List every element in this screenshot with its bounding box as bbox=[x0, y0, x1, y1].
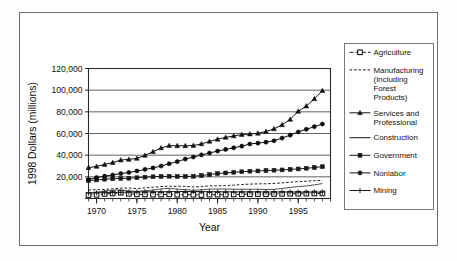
data-point-marker bbox=[119, 171, 123, 175]
x-axis-title: Year bbox=[199, 222, 221, 233]
x-tick-label: 1995 bbox=[289, 206, 308, 216]
data-point-marker bbox=[103, 174, 107, 178]
data-point-marker bbox=[288, 133, 292, 137]
legend-label: Government bbox=[374, 151, 418, 160]
data-point-marker bbox=[272, 168, 276, 172]
legend-label: Agriculture bbox=[374, 48, 412, 57]
data-point-marker bbox=[358, 153, 362, 157]
data-point-marker bbox=[224, 171, 228, 175]
data-point-marker bbox=[175, 175, 179, 179]
y-axis-title: 1998 Dollars (millions) bbox=[27, 82, 38, 185]
y-tick-label: 20,000 bbox=[56, 172, 83, 182]
data-point-marker bbox=[111, 173, 115, 177]
y-tick-label: 80,000 bbox=[56, 107, 83, 117]
data-point-marker bbox=[304, 127, 308, 131]
x-tick-label: 1985 bbox=[208, 206, 227, 216]
data-point-marker bbox=[127, 170, 131, 174]
data-point-marker bbox=[191, 174, 195, 178]
data-point-marker bbox=[296, 109, 301, 113]
data-point-marker bbox=[256, 141, 260, 145]
grid-lines bbox=[89, 69, 331, 177]
data-point-marker bbox=[143, 167, 147, 171]
data-point-marker bbox=[199, 153, 203, 157]
legend-label: Nonlabor bbox=[374, 169, 406, 178]
data-point-marker bbox=[264, 140, 268, 144]
line-chart: 20,00040,00060,00080,000100,000120,00019… bbox=[0, 0, 457, 261]
data-point-marker bbox=[296, 130, 300, 134]
data-point-marker bbox=[248, 142, 252, 146]
legend-label: Construction bbox=[374, 133, 418, 142]
legend-label: Mining bbox=[374, 186, 397, 195]
x-tick-label: 1975 bbox=[127, 206, 146, 216]
data-point-marker bbox=[312, 166, 316, 170]
figure-root: 20,00040,00060,00080,000100,000120,00019… bbox=[0, 0, 457, 261]
data-point-marker bbox=[159, 164, 163, 168]
data-point-marker bbox=[272, 139, 276, 143]
data-point-marker bbox=[143, 175, 147, 179]
x-tick-label: 1980 bbox=[168, 206, 187, 216]
legend-label: Manufacturing bbox=[374, 66, 424, 75]
y-tick-label: 40,000 bbox=[56, 150, 83, 160]
data-point-marker bbox=[288, 167, 292, 171]
x-axis: 197019751980198519901995 bbox=[87, 199, 330, 217]
data-point-marker bbox=[94, 175, 98, 179]
series-group bbox=[86, 88, 325, 197]
data-point-marker bbox=[296, 167, 300, 171]
legend-label: (Including bbox=[374, 75, 408, 84]
data-point-marker bbox=[240, 144, 244, 148]
data-point-marker bbox=[280, 122, 285, 126]
data-point-marker bbox=[151, 166, 155, 170]
data-point-marker bbox=[320, 122, 324, 126]
data-point-marker bbox=[208, 173, 212, 177]
data-point-marker bbox=[127, 176, 131, 180]
series-services-and-professional bbox=[86, 88, 325, 169]
data-point-marker bbox=[304, 166, 308, 170]
series-line bbox=[89, 124, 323, 179]
data-point-marker bbox=[248, 169, 252, 173]
y-axis: 20,00040,00060,00080,000100,000120,000 bbox=[51, 64, 88, 199]
data-point-marker bbox=[86, 177, 90, 181]
data-point-marker bbox=[232, 170, 236, 174]
data-point-marker bbox=[264, 169, 268, 173]
data-point-marker bbox=[224, 147, 228, 151]
data-point-marker bbox=[151, 175, 155, 179]
series-line bbox=[89, 91, 323, 168]
data-point-marker bbox=[280, 168, 284, 172]
data-point-marker bbox=[167, 162, 171, 166]
data-point-marker bbox=[358, 50, 363, 55]
data-point-marker bbox=[183, 157, 187, 161]
data-point-marker bbox=[167, 174, 171, 178]
series-line bbox=[89, 180, 323, 190]
data-point-marker bbox=[200, 174, 204, 178]
legend-label: Professional bbox=[374, 118, 418, 127]
x-tick-label: 1990 bbox=[248, 206, 267, 216]
data-point-marker bbox=[119, 177, 123, 181]
data-point-marker bbox=[159, 175, 163, 179]
legend-label: Products) bbox=[374, 93, 408, 102]
data-point-marker bbox=[135, 169, 139, 173]
data-point-marker bbox=[191, 155, 195, 159]
data-point-marker bbox=[111, 177, 115, 181]
data-point-marker bbox=[175, 160, 179, 164]
data-point-marker bbox=[256, 169, 260, 173]
data-point-marker bbox=[135, 176, 139, 180]
data-point-marker bbox=[183, 175, 187, 179]
data-point-marker bbox=[207, 151, 211, 155]
data-point-marker bbox=[358, 171, 362, 175]
series-manufacturing-including-forest-products bbox=[89, 180, 323, 190]
data-point-marker bbox=[232, 146, 236, 150]
data-point-marker bbox=[312, 125, 316, 129]
data-point-marker bbox=[280, 136, 284, 140]
y-tick-label: 100,000 bbox=[51, 85, 82, 95]
x-tick-label: 1970 bbox=[87, 206, 106, 216]
data-point-marker bbox=[215, 149, 219, 153]
y-tick-label: 120,000 bbox=[51, 64, 82, 74]
data-point-marker bbox=[321, 165, 325, 169]
data-point-marker bbox=[216, 172, 220, 176]
legend-label: Forest bbox=[374, 84, 397, 93]
series-nonlabor bbox=[86, 122, 324, 182]
y-tick-label: 60,000 bbox=[56, 129, 83, 139]
legend-label: Services and bbox=[374, 109, 420, 118]
legend: AgricultureManufacturing(IncludingForest… bbox=[345, 44, 434, 210]
data-point-marker bbox=[240, 170, 244, 174]
